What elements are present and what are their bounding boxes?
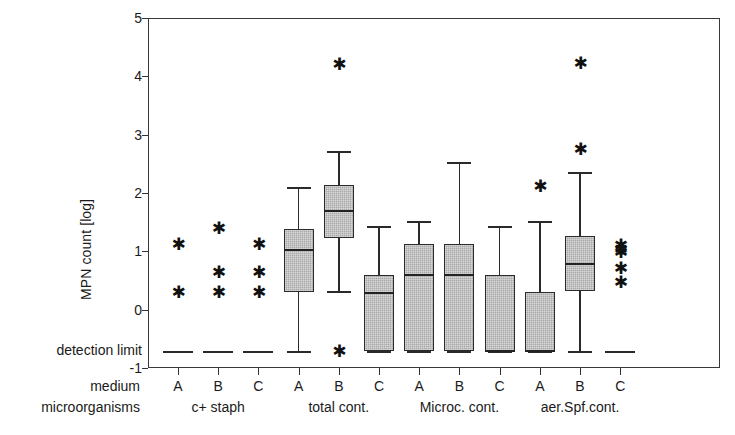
detection-limit-label: detection limit: [30, 343, 142, 357]
x-tick-label-medium: C: [238, 378, 278, 394]
outlier-asterisk-icon: ✱: [172, 286, 185, 299]
x-tick-label-medium: A: [520, 378, 560, 394]
x-tick-label-medium: A: [158, 378, 198, 394]
box: [284, 229, 314, 291]
y-tick-label: 5: [112, 11, 142, 25]
x-tick-label-medium: B: [198, 378, 238, 394]
box: [525, 292, 555, 351]
x-tick-label-medium: C: [480, 378, 520, 394]
median-line: [444, 274, 474, 276]
boxplot-figure: MPN count [log] -1012345 detection limit…: [0, 0, 735, 435]
whisker-cap-upper: [287, 187, 311, 189]
whisker-cap-upper: [447, 162, 471, 164]
outlier-asterisk-icon: ✱: [332, 345, 345, 358]
detection-limit-marker: [203, 351, 233, 353]
outlier-asterisk-icon: ✱: [212, 222, 225, 235]
outlier-asterisk-icon: ✱: [614, 246, 627, 259]
median-line: [565, 263, 595, 265]
outlier-asterisk-icon: ✱: [332, 58, 345, 71]
x-group-label: aer.Spf.cont.: [500, 399, 660, 415]
x-tick-mark: [258, 368, 259, 375]
plot-area: ✱✱✱✱✱✱✱✱✱✱✱✱✱✱✱✱✱✱: [148, 18, 720, 368]
y-tick-mark: [142, 135, 148, 136]
outlier-asterisk-icon: ✱: [212, 286, 225, 299]
outlier-asterisk-icon: ✱: [252, 238, 265, 251]
median-line: [525, 350, 555, 352]
outlier-asterisk-icon: ✱: [172, 238, 185, 251]
y-tick-mark: [142, 18, 148, 19]
whisker-cap-lower: [327, 291, 351, 293]
x-tick-label-medium: B: [560, 378, 600, 394]
median-line: [404, 274, 434, 276]
x-tick-label-medium: B: [319, 378, 359, 394]
whisker-cap-lower: [367, 351, 391, 353]
y-tick-mark: [142, 76, 148, 77]
outlier-asterisk-icon: ✱: [533, 180, 546, 193]
x-tick-mark: [379, 368, 380, 375]
x-tick-mark: [540, 368, 541, 375]
x-tick-mark: [299, 368, 300, 375]
whisker-cap-upper: [488, 226, 512, 228]
x-tick-mark: [459, 368, 460, 375]
whisker-cap-lower: [447, 351, 471, 353]
outlier-asterisk-icon: ✱: [212, 266, 225, 279]
whisker-cap-upper: [407, 221, 431, 223]
box: [444, 244, 474, 351]
x-tick-label-medium: A: [399, 378, 439, 394]
x-tick-mark: [419, 368, 420, 375]
whisker-cap-lower: [287, 351, 311, 353]
box: [485, 275, 515, 351]
y-axis-label: MPN count [log]: [78, 0, 94, 300]
axis-row-label-medium: medium: [90, 378, 140, 394]
y-tick-mark: [142, 310, 148, 311]
x-tick-label-medium: C: [600, 378, 640, 394]
median-line: [364, 292, 394, 294]
y-tick-label: 0: [112, 303, 142, 317]
detection-limit-marker: [605, 351, 635, 353]
box: [364, 275, 394, 351]
y-tick-label: 1: [112, 244, 142, 258]
x-tick-mark: [178, 368, 179, 375]
outlier-asterisk-icon: ✱: [252, 266, 265, 279]
whisker-cap-upper: [367, 226, 391, 228]
x-tick-label-medium: B: [439, 378, 479, 394]
whisker-cap-upper: [568, 172, 592, 174]
box: [324, 185, 354, 238]
outlier-asterisk-icon: ✱: [574, 143, 587, 156]
y-tick-label: -1: [112, 361, 142, 375]
median-line: [485, 350, 515, 352]
x-tick-label-medium: C: [359, 378, 399, 394]
y-tick-label: 2: [112, 186, 142, 200]
x-tick-mark: [620, 368, 621, 375]
y-axis-tick-labels: -1012345: [108, 0, 142, 435]
x-tick-mark: [339, 368, 340, 375]
whisker-cap-upper: [327, 151, 351, 153]
y-tick-mark: [142, 193, 148, 194]
x-tick-mark: [218, 368, 219, 375]
x-tick-mark: [500, 368, 501, 375]
detection-limit-marker: [243, 351, 273, 353]
box: [404, 244, 434, 351]
axis-row-label-microorganisms: microorganisms: [41, 399, 140, 415]
detection-limit-marker: [163, 351, 193, 353]
x-tick-mark: [580, 368, 581, 375]
whisker-cap-lower: [568, 351, 592, 353]
x-tick-label-medium: A: [279, 378, 319, 394]
y-tick-label: 3: [112, 128, 142, 142]
outlier-asterisk-icon: ✱: [252, 286, 265, 299]
outlier-asterisk-icon: ✱: [614, 276, 627, 289]
y-tick-mark: [142, 251, 148, 252]
median-line: [324, 210, 354, 212]
y-tick-label: 4: [112, 69, 142, 83]
whisker-cap-lower: [407, 351, 431, 353]
y-tick-mark: [142, 368, 148, 369]
whisker-cap-upper: [528, 221, 552, 223]
outlier-asterisk-icon: ✱: [574, 57, 587, 70]
median-line: [284, 249, 314, 251]
